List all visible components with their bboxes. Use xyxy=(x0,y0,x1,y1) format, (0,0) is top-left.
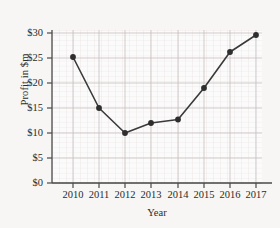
x-axis-title: Year xyxy=(52,207,262,218)
data-point-2017 xyxy=(253,32,259,38)
x-tick-label-2017: 2017 xyxy=(239,189,273,200)
data-point-2012 xyxy=(122,130,128,136)
line-chart: $0 $5 $10 $15 $20 $25 $30 2010 2011 2012… xyxy=(0,0,280,228)
y-axis-title: Profit in $m xyxy=(19,25,30,135)
y-tick-label-5: $5 xyxy=(11,152,43,163)
data-point-2016 xyxy=(227,49,233,55)
data-point-2013 xyxy=(148,120,154,126)
y-tick-label-0: $0 xyxy=(11,177,43,188)
y-axis xyxy=(47,30,52,183)
data-point-2011 xyxy=(96,105,102,111)
data-point-2015 xyxy=(201,85,207,91)
data-point-2010 xyxy=(70,54,76,60)
x-axis xyxy=(52,183,272,188)
data-point-2014 xyxy=(175,117,181,123)
